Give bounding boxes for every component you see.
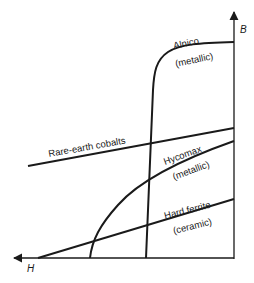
hard-ferrite-sub-label: (ceramic) (172, 216, 213, 236)
alnico-sub-label: (metallic) (174, 50, 214, 69)
alnico-label: Alnico (172, 35, 200, 51)
h-axis-label: H (27, 263, 35, 274)
b-axis-label: B (240, 24, 247, 35)
demagnetization-curves-diagram: B H Alnico (metallic) Rare-earth cobalts… (0, 0, 254, 283)
